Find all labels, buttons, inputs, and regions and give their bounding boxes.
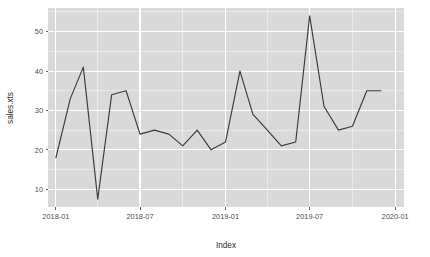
y-axis-tick-label: 10 xyxy=(35,185,43,194)
y-axis-tick-label: 50 xyxy=(35,27,43,36)
line-chart-svg: 1020304050 2018-012018-072019-012019-072… xyxy=(0,0,430,257)
chart-container: 1020304050 2018-012018-072019-012019-072… xyxy=(0,0,430,257)
x-axis-tick-label: 2019-07 xyxy=(296,212,323,221)
y-axis-tick-label: 20 xyxy=(35,146,43,155)
y-axis-tick-label: 30 xyxy=(35,106,43,115)
x-axis-title: Index xyxy=(216,241,236,250)
y-axis-title: sales.xts xyxy=(6,92,15,124)
x-axis-tick-label: 2018-07 xyxy=(126,212,153,221)
x-axis-tick-label: 2019-01 xyxy=(212,212,239,221)
x-axis-tick-label: 2020-01 xyxy=(382,212,409,221)
x-axis-tick-label: 2018-01 xyxy=(42,212,69,221)
y-axis-tick-label: 40 xyxy=(35,67,43,76)
